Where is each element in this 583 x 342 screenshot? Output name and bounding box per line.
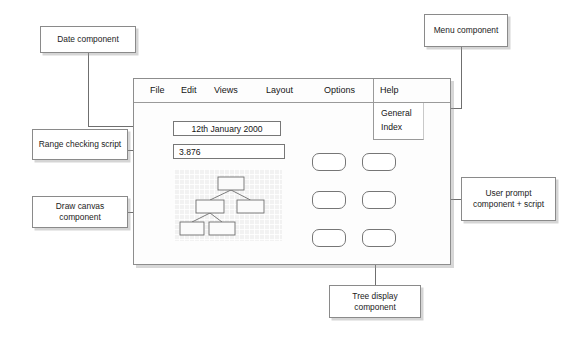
connector-date-vertical	[88, 53, 89, 127]
callout-prompt-label: User prompt component + script	[466, 188, 551, 210]
callout-menu-component: Menu component	[424, 14, 508, 47]
menu-item-views[interactable]: Views	[214, 85, 238, 95]
connector-menu-vertical	[461, 47, 462, 109]
draw-canvas[interactable]	[174, 169, 282, 241]
callout-range-checking-script: Range checking script	[32, 129, 128, 160]
tree-diagram	[174, 169, 282, 241]
menu-item-help[interactable]: Help	[380, 85, 399, 95]
tree-node[interactable]	[180, 222, 204, 235]
callout-date-component: Date component	[40, 26, 136, 53]
tree-node[interactable]	[196, 200, 224, 213]
prompt-btn-5[interactable]	[312, 229, 346, 247]
callout-range-label: Range checking script	[39, 139, 121, 150]
prompt-btn-2[interactable]	[362, 153, 396, 171]
prompt-btn-3[interactable]	[312, 191, 346, 209]
tree-edge	[210, 190, 231, 200]
menu-bar: File Edit Views Layout Options Help	[134, 79, 450, 103]
callout-tree-label: Tree display component	[334, 291, 416, 313]
callout-draw-label: Draw canvas component	[37, 201, 123, 223]
number-field[interactable]: 3.876	[173, 144, 285, 159]
date-field-value: 12th January 2000	[191, 124, 262, 134]
tree-node-group	[180, 177, 264, 235]
diagram-root: Date component Range checking script Dra…	[0, 0, 583, 342]
menu-item-index[interactable]: Index	[381, 120, 423, 134]
prompt-btn-1[interactable]	[312, 153, 346, 171]
callout-user-prompt-component: User prompt component + script	[461, 177, 556, 221]
tree-node[interactable]	[237, 200, 264, 213]
prompt-btn-6[interactable]	[362, 229, 396, 247]
tree-node[interactable]	[218, 177, 244, 190]
menu-item-edit[interactable]: Edit	[181, 85, 197, 95]
tree-node[interactable]	[209, 222, 235, 235]
callout-draw-canvas-component: Draw canvas component	[32, 196, 128, 228]
callout-date-label: Date component	[57, 34, 118, 45]
menu-item-file[interactable]: File	[150, 85, 165, 95]
number-field-value: 3.876	[179, 147, 201, 157]
application-window: File Edit Views Layout Options Help Gene…	[133, 78, 451, 265]
help-dropdown-menu: General Index	[373, 103, 424, 140]
menu-item-layout[interactable]: Layout	[266, 85, 293, 95]
date-field[interactable]: 12th January 2000	[173, 121, 281, 136]
menu-separator	[373, 79, 374, 103]
callout-menu-label: Menu component	[434, 25, 499, 36]
menu-item-general[interactable]: General	[381, 106, 423, 120]
tree-edge	[192, 213, 210, 222]
menu-item-options[interactable]: Options	[324, 85, 355, 95]
tree-edge	[210, 213, 222, 222]
callout-tree-display-component: Tree display component	[329, 285, 421, 318]
tree-edge	[231, 190, 251, 200]
prompt-btn-4[interactable]	[362, 191, 396, 209]
